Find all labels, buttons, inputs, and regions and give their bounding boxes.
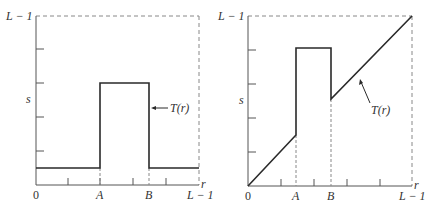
- right-panel: L − 1 s T(r) r 0 A B L − 1: [217, 9, 426, 203]
- left-y-ticks: [36, 49, 44, 151]
- left-x-tick-b: B: [145, 188, 153, 202]
- left-curve-label: T(r): [170, 101, 189, 115]
- left-y-axis-label: s: [26, 92, 31, 106]
- right-curve-pointer: [361, 82, 370, 103]
- right-y-axis-label: s: [239, 93, 244, 107]
- right-transform-curve: [248, 16, 412, 186]
- right-y-top-label: L − 1: [217, 9, 245, 23]
- intensity-slicing-diagram: L − 1 s T(r) r 0 A B L − 1 L − 1: [0, 0, 427, 206]
- left-x-tick-max: L − 1: [186, 188, 214, 202]
- left-x-tick-0: 0: [33, 188, 39, 202]
- right-y-ticks: [248, 50, 256, 152]
- right-curve-label: T(r): [371, 103, 390, 117]
- left-arrow-head-icon: [151, 106, 156, 110]
- right-x-tick-a: A: [291, 189, 300, 203]
- left-y-top-label: L − 1: [5, 9, 33, 23]
- left-panel: L − 1 s T(r) r 0 A B L − 1: [5, 9, 214, 202]
- left-x-tick-a: A: [95, 188, 104, 202]
- right-x-tick-max: L − 1: [398, 189, 426, 203]
- right-x-tick-0: 0: [245, 189, 251, 203]
- left-x-ticks: [68, 178, 166, 185]
- right-x-tick-b: B: [327, 189, 335, 203]
- left-transform-curve: [36, 83, 199, 168]
